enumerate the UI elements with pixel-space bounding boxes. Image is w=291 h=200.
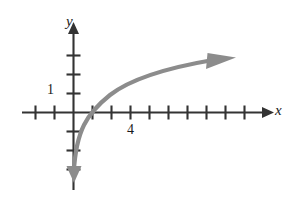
curve-path	[74, 60, 213, 172]
y-tick-label-1: 1	[47, 83, 54, 97]
graph-canvas	[0, 0, 291, 200]
x-axis-label: x	[275, 103, 282, 118]
curve-end-arrowhead	[206, 53, 236, 69]
x-tick-label-4: 4	[127, 123, 134, 137]
y-axis-label: y	[66, 14, 73, 29]
x-axis	[22, 106, 274, 120]
logarithmic-function-graph: y x 1 4	[0, 0, 291, 200]
curve-start-arrowhead	[67, 166, 82, 183]
x-axis-arrowhead	[262, 107, 274, 118]
